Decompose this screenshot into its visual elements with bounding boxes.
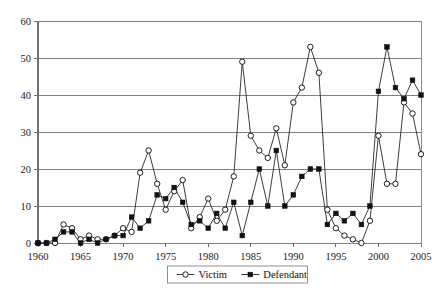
data-point-defendant [393, 85, 398, 90]
data-point-victim [333, 226, 338, 231]
data-point-defendant [376, 89, 381, 94]
data-point-victim [418, 152, 423, 157]
data-point-defendant [266, 204, 271, 209]
data-point-defendant [53, 237, 58, 242]
data-point-defendant [342, 219, 347, 224]
data-point-victim [146, 148, 151, 153]
data-point-defendant [163, 196, 168, 201]
data-point-defendant [129, 215, 134, 220]
data-point-defendant [283, 204, 288, 209]
data-point-victim [61, 222, 66, 227]
data-point-defendant [172, 185, 177, 190]
data-point-defendant [95, 241, 100, 246]
data-point-victim [257, 148, 262, 153]
data-point-victim [367, 218, 372, 223]
x-tick-label: 2000 [368, 251, 389, 262]
x-tick-label: 1985 [240, 251, 261, 262]
data-point-defendant [351, 211, 356, 216]
data-point-defendant [368, 204, 373, 209]
data-point-defendant [300, 174, 305, 179]
data-point-victim [129, 229, 134, 234]
data-point-defendant [112, 233, 117, 238]
data-point-defendant [419, 93, 424, 98]
data-point-victim [393, 181, 398, 186]
data-point-victim [214, 218, 219, 223]
data-point-victim [265, 155, 270, 160]
y-tick-label: 0 [26, 238, 31, 249]
data-point-defendant [223, 226, 228, 231]
x-tick-label: 1980 [198, 251, 219, 262]
y-tick-label: 40 [21, 90, 32, 101]
data-point-victim [231, 174, 236, 179]
y-tick-label: 10 [21, 201, 32, 212]
legend-marker-victim [183, 272, 188, 277]
data-point-victim [376, 133, 381, 138]
data-point-victim [240, 59, 245, 64]
line-chart: 0102030405060196019651970197519801985199… [0, 0, 432, 291]
data-point-defendant [240, 233, 245, 238]
chart-legend: VictimDefendant [168, 266, 308, 283]
data-point-defendant [308, 167, 313, 172]
data-point-defendant [180, 200, 185, 205]
data-point-defendant [61, 230, 66, 235]
y-tick-label: 60 [21, 16, 32, 27]
data-point-defendant [138, 226, 143, 231]
data-point-defendant [104, 237, 109, 242]
data-point-defendant [78, 241, 83, 246]
data-point-defendant [402, 96, 407, 101]
data-point-defendant [189, 222, 194, 227]
chart-container: 0102030405060196019651970197519801985199… [0, 0, 432, 291]
data-point-defendant [385, 45, 390, 50]
data-point-victim [206, 196, 211, 201]
data-point-defendant [121, 233, 126, 238]
data-point-defendant [317, 167, 322, 172]
series-line-defendant [38, 47, 421, 243]
x-tick-label: 2005 [411, 251, 432, 262]
data-point-victim [223, 207, 228, 212]
x-tick-label: 1960 [28, 251, 49, 262]
data-point-defendant [214, 211, 219, 216]
legend-marker-defendant [248, 272, 253, 277]
data-point-victim [291, 100, 296, 105]
data-point-defendant [197, 219, 202, 224]
data-point-victim [342, 233, 347, 238]
series-line-victim [38, 47, 421, 243]
y-tick-label: 20 [21, 164, 32, 175]
data-point-victim [325, 207, 330, 212]
data-point-victim [299, 85, 304, 90]
data-point-defendant [291, 193, 296, 198]
legend-label: Victim [199, 269, 228, 280]
data-point-defendant [206, 226, 211, 231]
y-tick-label: 30 [21, 127, 32, 138]
data-point-victim [163, 207, 168, 212]
data-point-defendant [87, 237, 92, 242]
data-point-defendant [44, 241, 49, 246]
data-point-victim [274, 126, 279, 131]
x-tick-label: 1965 [70, 251, 91, 262]
data-point-defendant [248, 200, 253, 205]
data-point-defendant [274, 148, 279, 153]
data-point-defendant [231, 200, 236, 205]
data-point-victim [137, 170, 142, 175]
data-point-defendant [325, 222, 330, 227]
data-point-victim [180, 177, 185, 182]
data-point-victim [248, 133, 253, 138]
data-point-defendant [155, 193, 160, 198]
x-tick-label: 1995 [325, 251, 346, 262]
data-point-victim [350, 237, 355, 242]
y-tick-label: 50 [21, 53, 32, 64]
data-point-victim [120, 226, 125, 231]
data-point-victim [282, 163, 287, 168]
data-point-victim [308, 44, 313, 49]
data-point-defendant [359, 222, 364, 227]
data-point-victim [410, 111, 415, 116]
data-point-defendant [146, 219, 151, 224]
data-point-victim [316, 70, 321, 75]
data-point-defendant [36, 241, 41, 246]
data-point-victim [359, 240, 364, 245]
x-tick-label: 1970 [113, 251, 134, 262]
data-point-defendant [334, 211, 339, 216]
data-point-victim [154, 181, 159, 186]
data-point-defendant [410, 78, 415, 83]
x-tick-label: 1975 [155, 251, 176, 262]
